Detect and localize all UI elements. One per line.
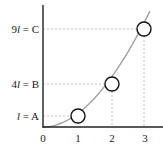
guide-lines [43,29,144,127]
parabola-curve [43,11,150,127]
quadratic-chart: 9l = C 4l = B l = A 0 1 2 3 [0,0,163,146]
point-c-marker [137,22,151,36]
y-label-b: 4l = B [11,78,39,90]
x-tick-0: 0 [40,132,46,144]
x-tick-1: 1 [75,132,81,144]
point-a-marker [71,109,85,123]
y-label-c: 9l = C [11,23,39,35]
y-label-a: l = A [17,110,39,122]
x-tick-2: 2 [109,132,115,144]
point-b-marker [105,77,119,91]
x-tick-3: 3 [142,132,148,144]
